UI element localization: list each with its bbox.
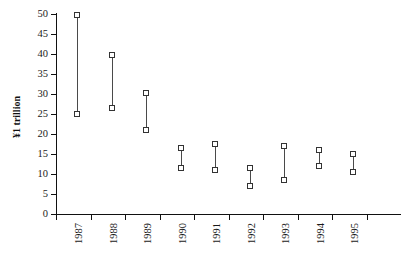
data-marker-high	[143, 90, 149, 96]
y-axis-tick-label: 45	[38, 29, 49, 39]
x-axis-tick-label: 1988	[108, 223, 119, 244]
x-axis-tick	[263, 214, 264, 220]
data-marker-high	[247, 165, 253, 171]
x-axis-tick-label: 1992	[246, 223, 257, 244]
data-marker-low	[178, 165, 184, 171]
range-bar	[77, 15, 78, 114]
x-axis-tick	[194, 214, 195, 220]
y-axis-tick-label: 20	[38, 129, 49, 139]
y-axis-tick-label: 50	[38, 9, 49, 19]
data-marker-high	[74, 12, 80, 18]
x-axis-tick-label: 1989	[142, 223, 153, 244]
range-bar	[146, 93, 147, 130]
y-axis-tick-label: 15	[38, 149, 49, 159]
x-axis-tick	[298, 214, 299, 220]
range-bar	[284, 146, 285, 180]
data-marker-high	[350, 151, 356, 157]
data-marker-low	[281, 177, 287, 183]
x-axis-tick	[91, 214, 92, 220]
x-axis-tick	[367, 214, 368, 220]
data-marker-high	[281, 143, 287, 149]
x-axis-tick	[160, 214, 161, 220]
data-marker-low	[74, 111, 80, 117]
range-chart: ¥1 trillion 05101520253035404550 1987198…	[0, 0, 407, 260]
y-axis-tick-label: 0	[43, 209, 48, 219]
data-marker-low	[247, 183, 253, 189]
data-marker-high	[178, 145, 184, 151]
y-axis-tick-label: 40	[38, 49, 49, 59]
y-axis-tick-label: 5	[43, 189, 48, 199]
y-axis-title: ¥1 trillion	[11, 96, 22, 138]
range-bar	[112, 55, 113, 108]
y-axis-tick-label: 10	[38, 169, 49, 179]
data-marker-low	[109, 105, 115, 111]
x-axis-tick-label: 1990	[177, 223, 188, 244]
data-marker-high	[109, 52, 115, 58]
y-axis-tick-label: 30	[38, 89, 49, 99]
y-axis-tick-label: 25	[38, 109, 49, 119]
x-axis-tick-label: 1995	[349, 223, 360, 244]
data-marker-low	[143, 127, 149, 133]
data-marker-low	[316, 163, 322, 169]
data-marker-high	[316, 147, 322, 153]
x-axis-tick-label: 1991	[211, 223, 222, 244]
y-axis-tick-label: 35	[38, 69, 49, 79]
data-marker-low	[350, 169, 356, 175]
x-axis-tick	[56, 214, 57, 220]
x-axis-tick	[332, 214, 333, 220]
data-marker-high	[212, 141, 218, 147]
x-axis-tick	[125, 214, 126, 220]
x-axis-tick-label: 1993	[280, 223, 291, 244]
x-axis-tick	[229, 214, 230, 220]
x-axis-tick-label: 1987	[73, 223, 84, 244]
plot-area	[56, 14, 401, 214]
data-marker-low	[212, 167, 218, 173]
x-axis-tick-label: 1994	[315, 223, 326, 244]
